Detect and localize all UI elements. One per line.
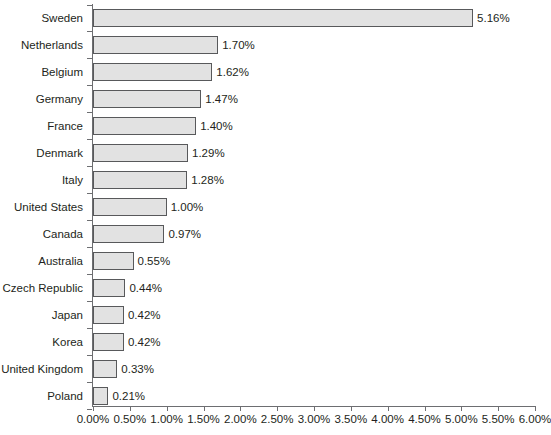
bar-row: Japan0.42% [0,302,547,329]
bar-value-label: 1.70% [222,32,255,59]
bar [93,306,124,324]
bar-value-label: 0.33% [121,356,154,383]
x-axis-tick-label: 4.50% [408,413,441,425]
x-axis-tick-label: 0.00% [77,413,110,425]
x-axis-tick-mark [204,406,205,411]
x-axis-tick-mark [425,406,426,411]
bar-value-label: 1.29% [192,140,225,167]
bar-row: Canada0.97% [0,221,547,248]
category-label: Germany [36,86,83,113]
category-label: France [47,113,83,140]
category-label: Korea [52,329,83,356]
x-axis-tick-label: 6.00% [519,413,551,425]
x-axis-tick-mark [240,406,241,411]
bar [93,387,108,405]
y-axis-tick [87,5,92,6]
bar-row: Netherlands1.70% [0,32,547,59]
x-axis-tick-mark [388,406,389,411]
x-axis-tick-label: 5.00% [445,413,478,425]
bar-row: Denmark1.29% [0,140,547,167]
bar-value-label: 0.42% [128,302,161,329]
bar [93,198,167,216]
x-axis-tick-mark [498,406,499,411]
category-label: Netherlands [21,32,83,59]
x-axis-tick-label: 3.00% [298,413,331,425]
category-label: Denmark [36,140,83,167]
category-label: Australia [38,248,83,275]
bar-row: Korea0.42% [0,329,547,356]
bar-rows: Sweden5.16%Netherlands1.70%Belgium1.62%G… [0,5,547,410]
bar [93,144,188,162]
category-label: Italy [62,167,83,194]
bar-value-label: 1.40% [200,113,233,140]
bar [93,225,164,243]
x-axis-tick-mark [167,406,168,411]
category-label: United Kingdom [1,356,83,383]
bar [93,171,187,189]
x-axis-tick-mark [130,406,131,411]
x-axis-tick-label: 4.00% [371,413,404,425]
bar-row: Sweden5.16% [0,5,547,32]
bar-row: France1.40% [0,113,547,140]
bar-value-label: 0.97% [168,221,201,248]
bar [93,63,212,81]
bar-value-label: 1.62% [216,59,249,86]
category-label: Sweden [41,5,83,32]
x-axis-tick-mark [314,406,315,411]
category-label: Czech Republic [2,275,83,302]
x-axis-tick-mark [535,406,536,411]
x-axis-tick-label: 2.00% [224,413,257,425]
bar-row: Czech Republic0.44% [0,275,547,302]
bar-value-label: 1.28% [191,167,224,194]
bar-row: Australia0.55% [0,248,547,275]
category-label: Japan [52,302,83,329]
bar-row: United Kingdom0.33% [0,356,547,383]
bar-value-label: 0.55% [138,248,171,275]
bar [93,90,201,108]
x-axis-tick-label: 1.00% [150,413,183,425]
x-axis-ticks: 0.00%0.50%1.00%1.50%2.00%2.50%3.00%3.50%… [0,406,547,435]
x-axis-tick-label: 2.50% [261,413,294,425]
x-axis-tick-label: 0.50% [114,413,147,425]
bar [93,279,125,297]
bar-value-label: 5.16% [477,5,510,32]
x-axis-tick-mark [93,406,94,411]
bar [93,252,134,270]
bar-row: United States1.00% [0,194,547,221]
category-label: Canada [43,221,83,248]
bar [93,117,196,135]
x-axis-tick-label: 1.50% [187,413,220,425]
x-axis-tick-label: 3.50% [335,413,368,425]
bar-value-label: 0.44% [129,275,162,302]
bar-row: Italy1.28% [0,167,547,194]
x-axis-tick-label: 5.50% [482,413,515,425]
bar [93,36,218,54]
bar [93,9,473,27]
x-axis-tick-mark [277,406,278,411]
bar-row: Belgium1.62% [0,59,547,86]
x-axis-tick-mark [461,406,462,411]
x-axis-tick-mark [351,406,352,411]
bar-value-label: 0.42% [128,329,161,356]
bar [93,333,124,351]
bar-row: Germany1.47% [0,86,547,113]
category-label: Belgium [41,59,83,86]
bar-value-label: 1.47% [205,86,238,113]
category-label: United States [14,194,83,221]
bar [93,360,117,378]
bar-value-label: 1.00% [171,194,204,221]
